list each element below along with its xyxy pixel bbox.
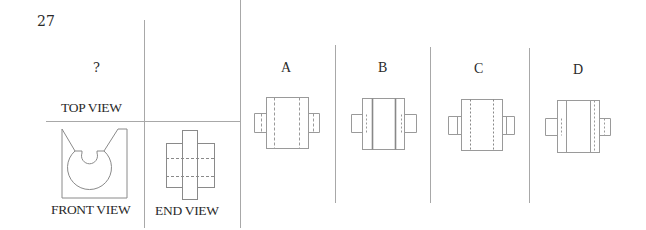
option-a-drawing[interactable] xyxy=(255,98,320,149)
option-c-drawing[interactable] xyxy=(449,100,515,151)
grid-lines xyxy=(46,0,530,228)
option-d-drawing[interactable] xyxy=(546,101,611,153)
end-view-drawing xyxy=(166,131,215,200)
option-b-drawing[interactable] xyxy=(352,99,417,150)
drawing-canvas xyxy=(0,0,646,230)
front-view-drawing xyxy=(62,129,127,198)
